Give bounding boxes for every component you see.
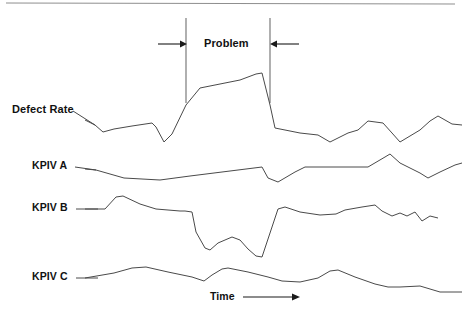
label-leader-lines [73, 111, 98, 278]
problem-left-arrow [158, 41, 187, 48]
problem-right-arrow [270, 41, 299, 48]
problem-annotation-label: Problem [204, 37, 249, 49]
top-rule-divider [6, 3, 455, 4]
series-lines-group [85, 73, 462, 292]
series-line [85, 154, 462, 182]
time-axis-label: Time [210, 290, 235, 302]
series-label-defect-rate: Defect Rate [12, 103, 74, 115]
series-label-kpiv-b: KPIV B [32, 201, 68, 213]
series-line [85, 196, 438, 257]
time-axis-arrow [243, 294, 300, 301]
multi-vari-time-series-figure: Defect Rate KPIV A KPIV B KPIV C Problem… [0, 0, 467, 311]
series-line [85, 73, 462, 142]
series-label-kpiv-c: KPIV C [32, 270, 68, 282]
series-line [85, 267, 462, 292]
series-label-kpiv-a: KPIV A [32, 159, 67, 171]
